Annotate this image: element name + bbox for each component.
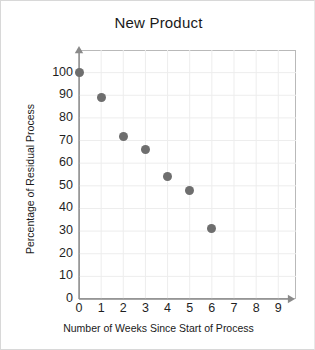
x-tick-label: 1 — [91, 301, 111, 315]
x-tick-label: 6 — [202, 301, 222, 315]
chart-page: New Product 0102030405060708090100 01234… — [0, 0, 315, 350]
x-tick-label: 9 — [268, 301, 288, 315]
x-tick-label: 2 — [113, 301, 133, 315]
y-axis-title: Percentage of Residual Process — [24, 79, 36, 279]
x-tick-label: 4 — [158, 301, 178, 315]
x-axis-title: Number of Weeks Since Start of Process — [1, 322, 315, 334]
x-tick-label: 5 — [180, 301, 200, 315]
x-tick-label: 3 — [135, 301, 155, 315]
x-axis-tick-labels: 0123456789 — [1, 1, 315, 350]
x-tick-label: 0 — [69, 301, 89, 315]
x-tick-label: 7 — [224, 301, 244, 315]
x-tick-label: 8 — [246, 301, 266, 315]
